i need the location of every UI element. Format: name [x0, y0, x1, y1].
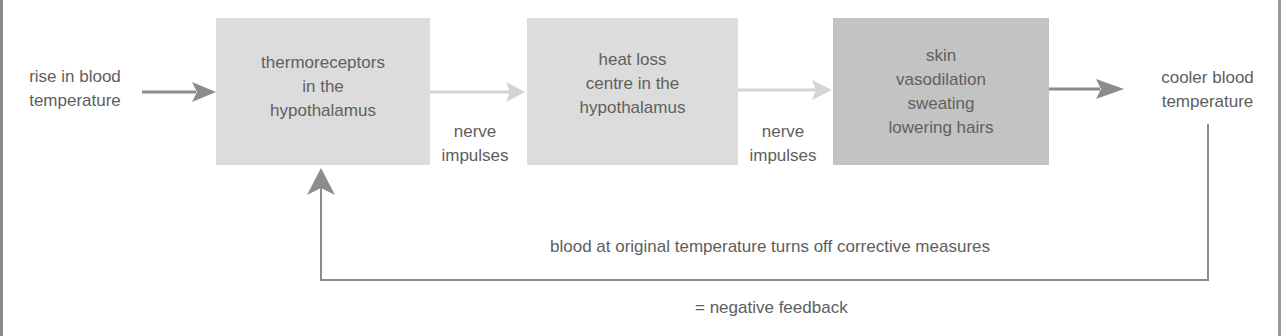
- arrow-right-icon: [738, 80, 832, 100]
- box-text-line: hypothalamus: [270, 99, 376, 123]
- box-text-line: skin: [926, 44, 956, 68]
- box-text-line: sweating: [907, 92, 974, 116]
- box-heat-loss-centre: heat loss centre in the hypothalamus: [527, 18, 738, 165]
- input-label-line: temperature: [0, 89, 150, 113]
- output-label-line: temperature: [1140, 90, 1275, 114]
- connector-label-line: nerve: [425, 120, 525, 144]
- box-text-line: vasodilation: [896, 68, 986, 92]
- arrow-right-icon: [142, 82, 216, 102]
- output-label-line: cooler blood: [1140, 66, 1275, 90]
- connector-label-nerve-impulses-1: nerve impulses: [425, 120, 525, 168]
- connector-label-line: impulses: [425, 144, 525, 168]
- connector-label-line: nerve: [733, 120, 833, 144]
- box-effectors: skin vasodilation sweating lowering hair…: [833, 18, 1049, 165]
- arrow-right-icon: [1049, 79, 1124, 99]
- box-text-line: lowering hairs: [889, 116, 994, 140]
- output-label: cooler blood temperature: [1140, 66, 1275, 114]
- box-text-line: centre in the: [586, 72, 680, 96]
- box-text-line: hypothalamus: [580, 96, 686, 120]
- feedback-label: blood at original temperature turns off …: [440, 235, 1100, 259]
- input-label-line: rise in blood: [0, 65, 150, 89]
- box-text-line: heat loss: [598, 48, 666, 72]
- connector-label-line: impulses: [733, 144, 833, 168]
- arrow-right-icon: [430, 82, 525, 102]
- caption-negative-feedback: = negative feedback: [640, 296, 925, 320]
- box-text-line: in the: [302, 75, 344, 99]
- input-label: rise in blood temperature: [0, 65, 150, 113]
- connector-label-nerve-impulses-2: nerve impulses: [733, 120, 833, 168]
- box-thermoreceptors: thermoreceptors in the hypothalamus: [216, 18, 430, 165]
- box-text-line: thermoreceptors: [261, 51, 385, 75]
